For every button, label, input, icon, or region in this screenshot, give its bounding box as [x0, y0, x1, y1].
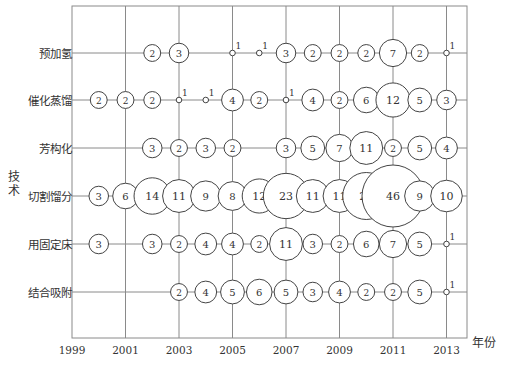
svg-text:2: 2: [176, 240, 182, 250]
bubble: 2: [304, 45, 321, 62]
svg-text:2: 2: [390, 288, 396, 298]
svg-text:2: 2: [417, 49, 423, 59]
svg-text:1: 1: [289, 88, 295, 98]
bubble: 5: [274, 280, 298, 304]
bubble: 3: [142, 138, 162, 158]
bubble: 4: [222, 233, 244, 255]
bubble: 4: [436, 137, 458, 159]
bubble: 2: [171, 140, 188, 157]
bubble: 7: [326, 134, 353, 161]
y-category-label: 结合吸附: [28, 284, 72, 300]
bubble: 1: [444, 41, 456, 56]
svg-text:11: 11: [172, 190, 186, 203]
svg-text:4: 4: [336, 287, 342, 298]
bubble: 5: [301, 136, 325, 160]
bubble-chart: 2311322272122211421426125332323571125436…: [0, 0, 524, 365]
svg-text:1: 1: [450, 280, 456, 290]
svg-text:46: 46: [386, 190, 400, 203]
svg-text:5: 5: [417, 287, 423, 298]
bubble: 2: [251, 92, 268, 109]
svg-text:3: 3: [283, 48, 289, 59]
svg-text:3: 3: [96, 239, 102, 250]
svg-text:2: 2: [176, 144, 182, 154]
svg-text:4: 4: [229, 239, 235, 250]
svg-text:2: 2: [363, 49, 369, 59]
svg-text:6: 6: [363, 239, 369, 250]
svg-text:3: 3: [149, 143, 155, 154]
x-axis-title: 年份: [472, 333, 496, 350]
svg-text:1: 1: [182, 88, 188, 98]
bubble: 11: [270, 228, 303, 261]
bubble: 5: [408, 280, 432, 304]
svg-text:3: 3: [310, 239, 316, 250]
svg-text:6: 6: [256, 287, 262, 298]
svg-text:2: 2: [230, 144, 236, 154]
bubble: 4: [329, 281, 351, 303]
bubble: 2: [411, 45, 428, 62]
bubble: 4: [222, 89, 244, 111]
bubble: 1: [444, 280, 456, 295]
svg-text:2: 2: [149, 96, 155, 106]
svg-text:2: 2: [123, 96, 129, 106]
svg-text:2: 2: [96, 96, 102, 106]
bubble: 2: [224, 140, 241, 157]
bubble: 4: [195, 281, 217, 303]
svg-text:3: 3: [176, 48, 182, 59]
svg-text:2: 2: [176, 288, 182, 298]
svg-text:3: 3: [283, 143, 289, 154]
bubble: 1: [230, 41, 242, 56]
svg-text:3: 3: [310, 287, 316, 298]
svg-text:2: 2: [149, 49, 155, 59]
bubble: 2: [171, 236, 188, 253]
svg-text:1: 1: [209, 88, 215, 98]
bubble: 2: [144, 45, 161, 62]
bubble: 1: [203, 88, 215, 103]
x-tick-label: 2003: [166, 344, 193, 356]
bubble: 2: [331, 45, 348, 62]
bubble: 2: [358, 284, 375, 301]
bubble: 3: [89, 234, 109, 254]
svg-text:1: 1: [236, 41, 242, 51]
svg-text:12: 12: [386, 94, 400, 107]
bubble: 3: [89, 186, 109, 206]
svg-text:9: 9: [203, 191, 209, 202]
bubble: 5: [408, 136, 432, 160]
svg-text:1: 1: [262, 41, 268, 51]
y-category-label: 预加氢: [39, 45, 72, 61]
svg-text:7: 7: [390, 48, 396, 59]
bubble: 1: [283, 88, 295, 103]
svg-text:4: 4: [443, 143, 449, 154]
svg-text:7: 7: [336, 143, 342, 154]
svg-text:2: 2: [390, 144, 396, 154]
bubble: 6: [353, 231, 379, 257]
bubble: 1: [256, 41, 268, 56]
svg-text:5: 5: [417, 95, 423, 106]
x-tick-label: 2013: [433, 344, 460, 356]
bubble: 2: [385, 140, 402, 157]
svg-text:7: 7: [390, 239, 396, 250]
svg-text:3: 3: [96, 191, 102, 202]
svg-text:2: 2: [337, 96, 343, 106]
svg-text:6: 6: [363, 95, 369, 106]
bubble: 3: [196, 138, 216, 158]
svg-text:2: 2: [310, 49, 316, 59]
svg-text:2: 2: [256, 96, 262, 106]
bubble: 3: [169, 43, 189, 63]
svg-text:1: 1: [450, 41, 456, 51]
bubble: 4: [302, 89, 324, 111]
x-tick-label: 2011: [380, 344, 407, 356]
svg-text:2: 2: [337, 240, 343, 250]
svg-text:2: 2: [337, 49, 343, 59]
bubble: 5: [408, 232, 432, 256]
bubble: 12: [376, 83, 410, 117]
bubble: 1: [444, 232, 456, 247]
bubble: 6: [246, 279, 272, 305]
svg-text:5: 5: [417, 143, 423, 154]
bubble: 3: [437, 90, 457, 110]
svg-text:3: 3: [443, 95, 449, 106]
bubble: 3: [303, 282, 323, 302]
bubble: 2: [331, 92, 348, 109]
svg-text:4: 4: [229, 95, 235, 106]
bubble: 2: [171, 284, 188, 301]
bubble: 2: [144, 92, 161, 109]
